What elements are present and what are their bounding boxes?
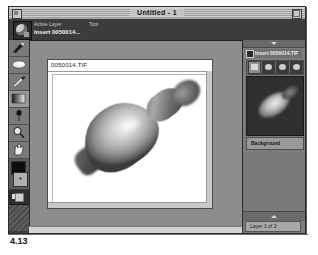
zoom-box-icon[interactable]	[292, 9, 302, 19]
palette-mode-buttons[interactable]	[246, 60, 304, 75]
triangle-down-icon	[271, 215, 277, 218]
image-canvas[interactable]	[52, 74, 208, 204]
standardmode-icon	[15, 193, 24, 202]
pencil-icon	[11, 75, 27, 88]
figure-container: Untitled - 1 Active Layer Tool Insert 00…	[0, 0, 318, 255]
app-logo-icon	[13, 21, 32, 40]
bowling-pin-photo	[53, 75, 207, 203]
figure-caption: 4.13	[10, 236, 28, 246]
hand-tool[interactable]	[9, 142, 29, 159]
active-layer-label: Active Layer	[34, 21, 62, 28]
window-title-text: Untitled - 1	[130, 9, 184, 16]
tool-palette[interactable]	[9, 40, 30, 233]
mode-preview-button[interactable]	[290, 61, 303, 74]
pencil-tool[interactable]	[9, 74, 29, 91]
zoom-tool[interactable]	[9, 125, 29, 142]
caption-divider	[8, 234, 308, 235]
palette-status-field: Layer 1 of 2	[245, 221, 301, 232]
paintbrush-icon	[11, 41, 27, 54]
active-layer-value: Insert 0050014...	[34, 29, 80, 36]
magnifier-icon	[11, 126, 27, 139]
mode-normal-button[interactable]	[248, 61, 261, 74]
triangle-up-icon	[271, 42, 277, 45]
background-color-swatch[interactable]	[13, 172, 28, 187]
layer-thumbnail[interactable]	[246, 76, 304, 136]
palette-collapse-bar[interactable]	[243, 40, 305, 48]
document-title: 0050014.TIF	[51, 61, 87, 70]
gradient-icon	[11, 92, 27, 105]
palette-empty-area	[243, 152, 305, 216]
gradient-tool[interactable]	[9, 91, 29, 108]
document-horizontal-scrollbar[interactable]	[48, 202, 207, 208]
eyedropper-icon	[11, 109, 27, 122]
background-layer-row[interactable]: Background	[246, 137, 304, 150]
color-swatches[interactable]	[9, 159, 29, 190]
document-title-bar[interactable]: 0050014.TIF	[48, 60, 212, 72]
info-bar: Active Layer Tool Insert 0050014...	[9, 19, 305, 41]
tool-texture-area	[9, 205, 29, 231]
document-vertical-scrollbar[interactable]	[206, 71, 212, 208]
quick-mask-toggle[interactable]	[9, 190, 29, 205]
window-title: Untitled - 1	[9, 7, 305, 19]
palette-status-text: Layer 1 of 2	[250, 222, 276, 231]
eraser-tool[interactable]	[9, 57, 29, 74]
background-label: Background	[251, 138, 280, 149]
brush-tool[interactable]	[9, 40, 29, 57]
eraser-icon	[11, 58, 27, 71]
document-window[interactable]: 0050014.TIF	[47, 59, 213, 209]
palette-expand-bar[interactable]	[243, 211, 305, 221]
layer-list-item[interactable]: Insert 0050014.TIF	[246, 49, 302, 58]
eyedropper-tool[interactable]	[9, 108, 29, 125]
window-bottom-edge	[29, 226, 242, 233]
application-window: Untitled - 1 Active Layer Tool Insert 00…	[8, 6, 306, 234]
mode-paint-button[interactable]	[276, 61, 289, 74]
mode-mask-button[interactable]	[262, 61, 275, 74]
layers-palette[interactable]: Insert 0050014.TIF Background Layer 1 of…	[242, 40, 305, 233]
hand-icon	[11, 143, 27, 156]
tool-label: Tool	[89, 21, 98, 28]
layer-visibility-checkbox[interactable]	[246, 50, 254, 58]
layer-name-label: Insert 0050014.TIF	[255, 49, 298, 58]
